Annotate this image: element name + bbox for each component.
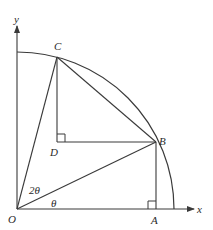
angle-label-2theta: 2θ — [29, 185, 40, 196]
angle-label-theta: θ — [51, 198, 56, 209]
y-axis-label: y — [14, 14, 19, 25]
point-label-O: O — [8, 214, 16, 225]
x-axis-label: x — [197, 204, 202, 215]
right-angle-marker-D — [57, 134, 65, 142]
segment-CB — [57, 57, 156, 142]
point-label-B: B — [159, 136, 166, 147]
point-label-A: A — [151, 215, 158, 226]
right-angle-marker-A — [148, 201, 156, 209]
point-label-C: C — [54, 41, 61, 52]
segment-OB — [17, 142, 156, 209]
diagram-canvas: y x C B D A O 2θ θ — [0, 0, 213, 230]
quarter-circle-arc — [17, 52, 174, 209]
point-label-D: D — [50, 147, 58, 158]
